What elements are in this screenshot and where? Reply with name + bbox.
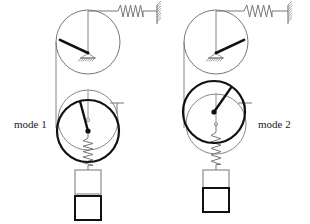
mass-block-reference	[75, 170, 101, 194]
mode-shape-diagram: mode 1mode 2	[0, 0, 310, 224]
mode-label-2: mode 2	[258, 118, 291, 130]
lower-spring	[211, 124, 221, 170]
mode-assembly-1	[56, 1, 161, 220]
lower-pulley-mode-spoke	[80, 102, 88, 131]
pivot-pin-dot	[87, 52, 90, 55]
lower-pulley-mode-spoke	[214, 87, 231, 112]
mass-block-mode	[75, 196, 101, 220]
top-wall	[157, 1, 161, 24]
lower-spring	[83, 131, 93, 170]
lower-pulley-mode-hub-dot	[85, 128, 90, 133]
mode-assembly-2	[183, 1, 292, 212]
top-wall	[288, 1, 292, 24]
upper-pulley-mode-spoke	[60, 40, 88, 53]
upper-pulley-pivot-ground	[78, 52, 96, 62]
figure-canvas: mode 1mode 2	[0, 0, 310, 224]
top-spring	[216, 5, 288, 17]
top-spring	[88, 5, 157, 17]
lower-pulley-mode-hub-dot	[211, 109, 216, 114]
upper-pulley-mode-spoke	[216, 40, 244, 53]
mode-label-1: mode 1	[14, 118, 47, 130]
upper-pulley-pivot-ground	[206, 52, 224, 62]
pivot-pin-dot	[215, 52, 218, 55]
mass-block-mode	[203, 188, 229, 212]
